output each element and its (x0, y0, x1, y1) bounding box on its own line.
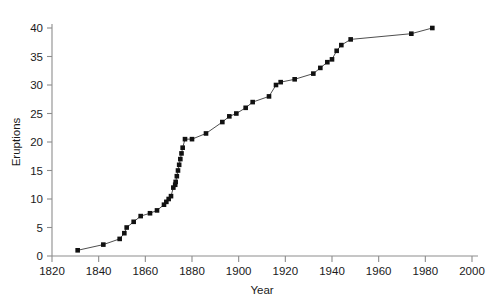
x-tick-label: 1940 (319, 265, 345, 277)
data-point-marker (274, 83, 279, 88)
data-point-marker (250, 100, 255, 105)
data-point-marker (178, 157, 183, 162)
data-point-marker (234, 111, 239, 116)
data-point-marker (122, 231, 127, 236)
data-point-marker (220, 120, 225, 125)
eruptions-line-chart: 0510152025303540 18201840186018801900192… (0, 0, 497, 299)
data-point-marker (227, 114, 232, 119)
data-point-marker (243, 106, 248, 111)
data-point-marker (334, 49, 339, 54)
data-point-marker (101, 242, 106, 247)
y-tick-label: 15 (30, 165, 43, 177)
data-point-marker (173, 180, 178, 185)
data-point-marker (148, 211, 153, 216)
y-tick-label: 10 (30, 193, 43, 205)
x-tick-label: 1880 (179, 265, 205, 277)
data-point-marker (325, 60, 330, 65)
data-point-marker (179, 151, 184, 156)
data-point-marker (176, 168, 181, 173)
x-tick-label: 1920 (273, 265, 299, 277)
data-point-marker (348, 37, 353, 42)
y-tick-label: 35 (30, 51, 43, 63)
x-tick-label: 1840 (86, 265, 112, 277)
data-point-marker (267, 94, 272, 99)
data-point-marker (430, 26, 435, 31)
data-point-marker (183, 137, 188, 142)
data-point-marker (124, 225, 129, 230)
data-point-marker (138, 214, 143, 219)
data-point-marker (117, 237, 122, 242)
data-point-marker (155, 208, 160, 213)
data-point-marker (175, 174, 180, 179)
x-tick-label: 2000 (459, 265, 485, 277)
x-tick-label: 1960 (366, 265, 392, 277)
data-point-marker (318, 66, 323, 71)
data-point-marker (75, 248, 80, 253)
data-point-marker (131, 220, 136, 225)
x-tick-label: 1900 (226, 265, 252, 277)
y-tick-label: 40 (30, 22, 43, 34)
y-tick-label: 25 (30, 108, 43, 120)
y-tick-label: 5 (37, 222, 43, 234)
data-point-marker (311, 71, 316, 76)
chart-background (0, 0, 497, 299)
x-tick-label: 1980 (413, 265, 439, 277)
y-tick-label: 30 (30, 79, 43, 91)
y-axis-title: Eruptions (10, 117, 22, 166)
x-axis-title: Year (250, 284, 273, 296)
y-tick-label: 0 (37, 250, 43, 262)
data-point-marker (180, 145, 185, 150)
data-point-marker (204, 131, 209, 136)
data-point-marker (177, 163, 182, 168)
x-tick-label: 1860 (133, 265, 159, 277)
data-point-marker (409, 31, 414, 36)
chart-container: 0510152025303540 18201840186018801900192… (0, 0, 497, 299)
data-point-marker (330, 57, 335, 62)
data-point-marker (169, 194, 174, 199)
data-point-marker (190, 137, 195, 142)
data-point-marker (278, 80, 283, 85)
data-point-marker (339, 43, 344, 48)
x-tick-label: 1820 (39, 265, 65, 277)
data-point-marker (292, 77, 297, 82)
y-tick-label: 20 (30, 136, 43, 148)
